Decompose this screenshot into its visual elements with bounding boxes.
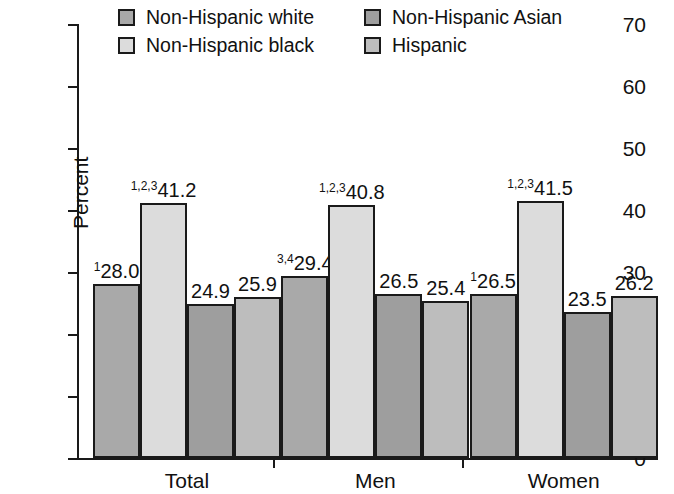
bar-value-label: 128.0 [94,261,140,281]
x-axis-category-label: Total [165,470,209,491]
bar: 1,2,341.5 [517,201,564,458]
x-axis-tick [462,458,464,468]
bar-value-label: 3,429.4 [277,253,333,273]
bar: 24.9 [187,304,234,458]
bar: 128.0 [93,284,140,458]
bar-value-label: 126.5 [470,271,516,291]
y-axis-tick [68,210,77,212]
y-axis-tick [68,334,77,336]
y-axis-tick-label: 50 [623,138,646,159]
y-axis-tick-label: 40 [623,200,646,221]
y-axis-line [77,24,79,458]
x-axis-category-label: Men [355,470,396,491]
bar: 25.9 [234,297,281,458]
bar-footnote-marker: 3,4 [277,252,294,266]
bar-value-label: 1,2,341.2 [131,180,197,200]
bar-value-label: 26.5 [379,271,418,291]
bar-footnote-marker: 1 [94,260,101,274]
bar: 3,429.4 [281,276,328,458]
y-axis-tick-label: 60 [623,76,646,97]
bar-value-label: 1,2,341.5 [507,178,573,198]
bar: 26.2 [611,296,658,458]
bar-value-label: 26.2 [615,273,654,293]
bar-chart: Non-Hispanic white Non-Hispanic black No… [0,0,674,494]
bar-footnote-marker: 1,2,3 [319,181,346,195]
bar: 25.4 [422,301,469,458]
y-axis-tick [68,272,77,274]
bar: 1,2,341.2 [140,203,187,458]
bar: 1,2,340.8 [328,205,375,458]
y-axis-title: Percent [69,157,93,229]
y-axis-tick [68,396,77,398]
y-axis-tick [68,86,77,88]
y-axis-tick-label: 70 [623,14,646,35]
y-axis-tick [68,148,77,150]
x-axis-tick [273,458,275,468]
bar-footnote-marker: 1 [470,270,477,284]
bar-value-label: 25.9 [238,274,277,294]
bar-value-label: 1,2,340.8 [319,182,385,202]
x-axis-line [77,458,658,460]
bar-value-label: 25.4 [426,278,465,298]
bar: 26.5 [375,294,422,458]
plot-area: Percent 010203040506070 128.01,2,341.224… [77,24,658,458]
bar: 23.5 [564,312,611,458]
bar-footnote-marker: 1,2,3 [507,177,534,191]
x-axis-category-label: Women [528,470,600,491]
bar: 126.5 [470,294,517,458]
bar-value-label: 24.9 [191,281,230,301]
bar-value-label: 23.5 [568,289,607,309]
bar-footnote-marker: 1,2,3 [131,179,158,193]
y-axis-tick [68,458,77,460]
y-axis-tick [68,24,77,26]
